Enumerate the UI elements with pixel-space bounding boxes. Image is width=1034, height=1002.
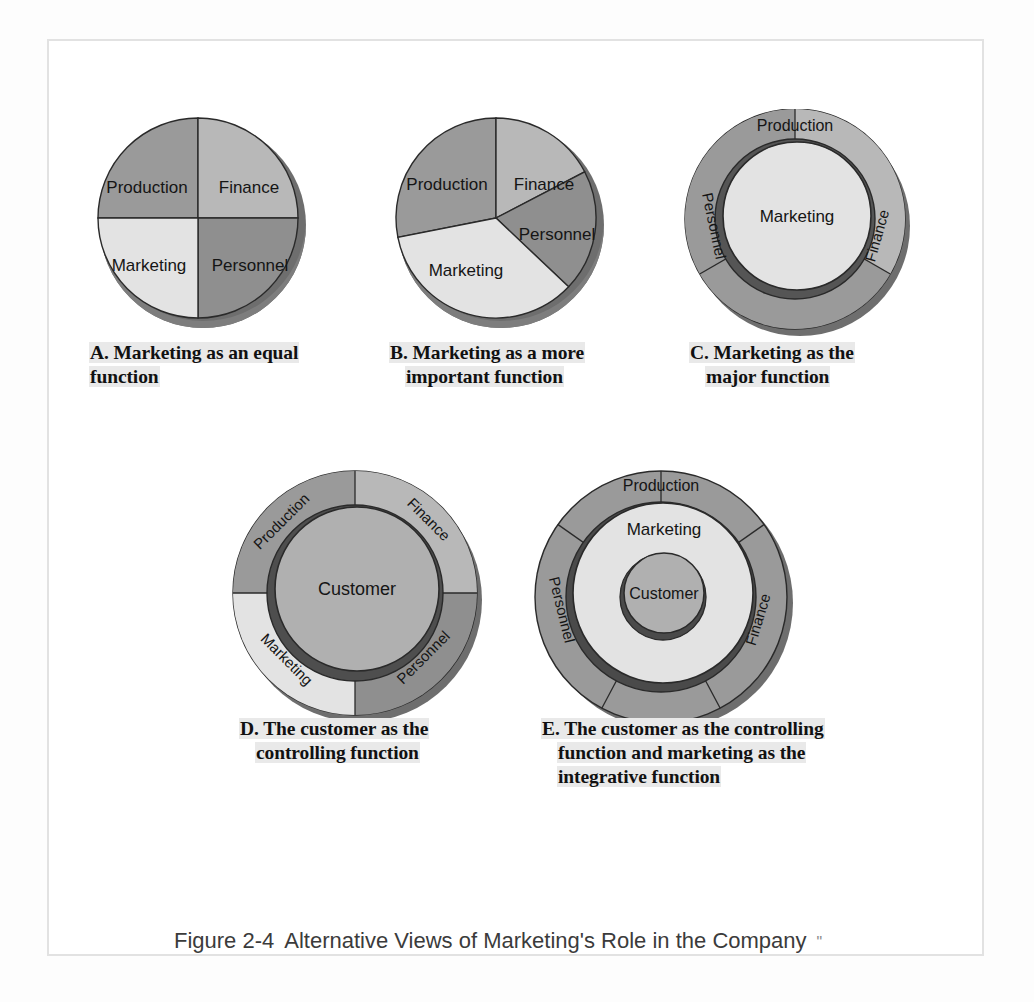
pie-a-label-marketing: Marketing [112,256,187,275]
ring-e-label-marketing: Marketing [627,520,702,539]
pie-a-label-personnel: Personnel [212,256,289,275]
diagram-b-svg: Production Finance Personnel Marketing [389,113,619,345]
diagram-d-svg: Customer Production Finance Personnel Ma… [229,469,491,735]
diagram-e-caption-line3: integrative function [557,766,721,787]
figure-page: Production Finance Marketing Personnel A… [0,0,1034,1002]
pie-a-slice-production [98,118,198,218]
figure-caption: Figure 2-4Alternative Views of Marketing… [174,928,822,954]
figure-title: Alternative Views of Marketing's Role in… [284,928,806,953]
pie-b-label-finance: Finance [514,175,574,194]
ring-d-label-customer: Customer [318,579,396,599]
diagram-b-caption-line2: important function [405,366,564,387]
diagram-c-letter: C. [690,342,709,363]
diagram-b-pie: Production Finance Personnel Marketing [389,113,619,345]
diagram-a-caption-line1: Marketing as an equal [114,342,299,363]
pie-b-label-marketing: Marketing [429,261,504,280]
diagram-d-caption: D. The customer as the controlling funct… [239,717,529,765]
diagram-c-caption: C. Marketing as the major function [689,341,929,389]
diagram-a-caption: A. Marketing as an equal function [89,341,339,389]
diagram-e-caption-line2: function and marketing as the [557,742,806,763]
diagram-d-ring: Customer Production Finance Personnel Ma… [229,469,491,735]
diagram-c-caption-line1: Marketing as the [714,342,854,363]
ring-e-label-production: Production [623,477,700,494]
pie-b-label-personnel: Personnel [519,225,596,244]
diagram-c-caption-line2: major function [705,366,830,387]
diagram-e-caption-line1: The customer as the controlling [564,718,823,739]
diagram-e-caption: E. The customer as the controlling funct… [541,717,881,789]
diagram-c-svg: Marketing Production Personnel Finance [683,109,923,353]
diagram-a-letter: A. [90,342,109,363]
diagram-e-svg: Customer Marketing Production Personnel … [531,469,803,741]
diagram-b-letter: B. [390,342,408,363]
figure-caption-marks: " [817,934,823,951]
diagram-e-nested-ring: Customer Marketing Production Personnel … [531,469,803,741]
diagram-a-svg: Production Finance Marketing Personnel [91,113,321,345]
diagram-e-letter: E. [542,718,560,739]
diagram-b-caption: B. Marketing as a more important functio… [389,341,639,389]
diagram-a-pie: Production Finance Marketing Personnel [91,113,321,345]
diagram-a-caption-line2: function [89,366,160,387]
diagram-b-caption-line1: Marketing as a more [412,342,584,363]
diagram-d-caption-line1: The customer as the [263,718,428,739]
figure-frame: Production Finance Marketing Personnel A… [47,39,984,956]
pie-a-label-finance: Finance [219,178,279,197]
diagram-d-letter: D. [240,718,259,739]
pie-a-label-production: Production [106,178,187,197]
ring-c-label-marketing: Marketing [760,207,835,226]
pie-a-slice-finance [198,118,298,218]
ring-c-label-production: Production [757,117,834,134]
ring-e-label-customer: Customer [629,585,699,602]
figure-number: Figure 2-4 [174,928,274,953]
pie-b-label-production: Production [406,175,487,194]
diagram-d-caption-line2: controlling function [255,742,420,763]
diagram-c-ring: Marketing Production Personnel Finance [683,109,923,353]
